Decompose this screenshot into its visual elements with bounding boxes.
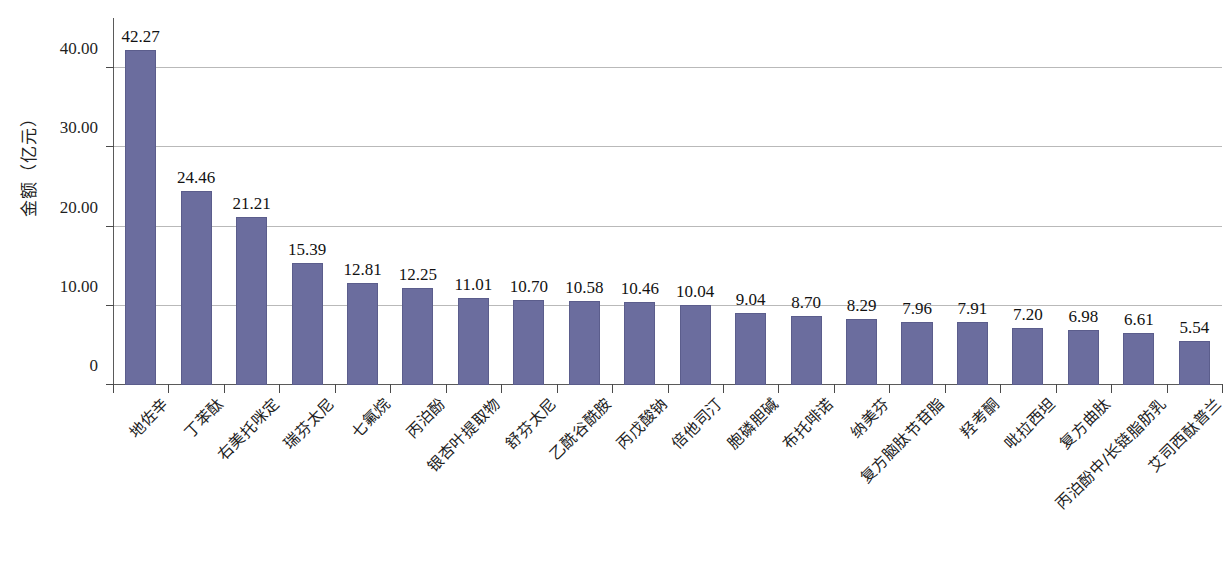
bar[interactable] <box>125 50 156 385</box>
bar-value-label: 42.27 <box>122 27 160 47</box>
bar-value-label: 11.01 <box>455 275 493 295</box>
bar[interactable] <box>402 288 433 385</box>
bar-value-label: 6.98 <box>1068 307 1098 327</box>
y-tick-label: 0 <box>90 356 99 376</box>
bar-slot: 10.46 <box>612 18 667 385</box>
bar-value-label: 12.25 <box>399 265 437 285</box>
bar-slot: 6.98 <box>1056 18 1111 385</box>
bar-value-label: 15.39 <box>288 240 326 260</box>
x-axis-label: 丁苯酞 <box>178 392 227 441</box>
x-axis-label: 丙泊酚 <box>400 392 449 441</box>
bar-value-label: 10.58 <box>565 278 603 298</box>
bar-value-label: 8.70 <box>791 293 821 313</box>
bar-slot: 21.21 <box>224 18 279 385</box>
bar[interactable] <box>1123 333 1154 385</box>
bar[interactable] <box>680 305 711 385</box>
bar[interactable] <box>791 316 822 385</box>
x-axis-label: 纳美芬 <box>844 392 893 441</box>
x-axis-labels: 地佐辛丁苯酞右美托咪定瑞芬太尼七氟烷丙泊酚银杏叶提取物舒芬太尼乙酰谷酰胺丙戊酸钠… <box>113 392 1222 562</box>
bar[interactable] <box>1068 330 1099 385</box>
bar[interactable] <box>1179 341 1210 385</box>
bar[interactable] <box>292 263 323 385</box>
bar-value-label: 10.04 <box>676 282 714 302</box>
bar-slot: 8.29 <box>834 18 889 385</box>
y-tick-label: 30.00 <box>60 118 98 138</box>
bar-slot: 15.39 <box>279 18 334 385</box>
bar-slot: 12.81 <box>335 18 390 385</box>
bar-slot: 7.96 <box>889 18 944 385</box>
bar-slot: 6.61 <box>1111 18 1166 385</box>
x-axis-label: 吡拉西坦 <box>999 392 1060 453</box>
x-axis-label: 倍他司汀 <box>666 392 727 453</box>
bar-slot: 24.46 <box>168 18 223 385</box>
bar-value-label: 21.21 <box>232 194 270 214</box>
y-tick-label: 10.00 <box>60 277 98 297</box>
bar-chart: 金额（亿元） 010.0020.0030.0040.00 42.2724.462… <box>0 0 1232 565</box>
bar-slot: 12.25 <box>390 18 445 385</box>
plot-area: 010.0020.0030.0040.00 42.2724.4621.2115.… <box>113 18 1222 385</box>
bar-slot: 10.58 <box>557 18 612 385</box>
bar-value-label: 8.29 <box>847 296 877 316</box>
bar[interactable] <box>1012 328 1043 385</box>
bar[interactable] <box>624 302 655 385</box>
bar-slot: 42.27 <box>113 18 168 385</box>
bar-value-label: 7.20 <box>1013 305 1043 325</box>
bar-slot: 9.04 <box>723 18 778 385</box>
bar[interactable] <box>735 313 766 385</box>
bar[interactable] <box>901 322 932 385</box>
bar-value-label: 7.96 <box>902 299 932 319</box>
bar-value-label: 24.46 <box>177 168 215 188</box>
bar-slot: 7.91 <box>945 18 1000 385</box>
x-axis-label: 地佐辛 <box>123 392 172 441</box>
bar-slot: 11.01 <box>446 18 501 385</box>
bar-series: 42.2724.4621.2115.3912.8112.2511.0110.70… <box>113 18 1222 385</box>
bar[interactable] <box>569 301 600 385</box>
y-tick-label: 40.00 <box>60 39 98 59</box>
x-axis-label: 七氟烷 <box>345 392 394 441</box>
bar-slot: 10.70 <box>501 18 556 385</box>
bar[interactable] <box>846 319 877 385</box>
x-axis-label: 胞磷胆碱 <box>721 392 782 453</box>
x-tick-mark <box>1222 384 1223 393</box>
bar-value-label: 9.04 <box>736 290 766 310</box>
x-axis-label: 羟考酮 <box>955 392 1004 441</box>
bar-value-label: 10.46 <box>621 279 659 299</box>
bar[interactable] <box>957 322 988 385</box>
bar-value-label: 12.81 <box>343 260 381 280</box>
bar-value-label: 7.91 <box>958 299 988 319</box>
bar-slot: 5.54 <box>1167 18 1222 385</box>
y-axis-title: 金额（亿元） <box>15 78 40 248</box>
bar[interactable] <box>181 191 212 385</box>
bar[interactable] <box>347 283 378 385</box>
bar[interactable] <box>513 300 544 385</box>
x-axis-label: 丙戊酸钠 <box>611 392 672 453</box>
bar-value-label: 10.70 <box>510 277 548 297</box>
x-axis-label: 布托啡诺 <box>777 392 838 453</box>
bar-value-label: 6.61 <box>1124 310 1154 330</box>
bar[interactable] <box>458 298 489 385</box>
bar-value-label: 5.54 <box>1179 318 1209 338</box>
bar[interactable] <box>236 217 267 385</box>
bar-slot: 10.04 <box>668 18 723 385</box>
x-axis-label: 瑞芬太尼 <box>278 392 339 453</box>
y-tick-label: 20.00 <box>60 198 98 218</box>
bar-slot: 8.70 <box>778 18 833 385</box>
bar-slot: 7.20 <box>1000 18 1055 385</box>
